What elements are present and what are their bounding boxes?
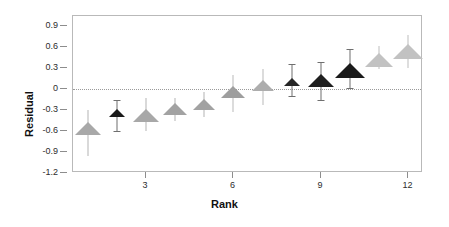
- x-tick-mark: [145, 172, 146, 178]
- data-point-marker: [221, 86, 245, 98]
- data-point-marker: [163, 103, 187, 115]
- data-point-marker: [308, 74, 334, 87]
- data-point-marker: [109, 109, 125, 117]
- y-tick-mark: [60, 151, 67, 152]
- x-tick-label: 12: [402, 180, 412, 190]
- y-tick-label: 0.6: [45, 41, 58, 51]
- error-bar-cap: [347, 49, 354, 50]
- y-tick-mark: [60, 130, 67, 131]
- x-tick-mark: [320, 172, 321, 178]
- error-bar-cap: [288, 64, 295, 65]
- plot-area: [72, 15, 422, 172]
- data-point-marker: [284, 78, 300, 86]
- y-tick-mark: [60, 88, 67, 89]
- x-tick-label: 3: [142, 180, 147, 190]
- error-bar-cap: [317, 100, 324, 101]
- data-point-marker: [75, 122, 101, 135]
- y-tick-label: -0.6: [42, 125, 58, 135]
- data-layer: [73, 16, 421, 171]
- x-tick-label: 9: [317, 180, 322, 190]
- error-bar-cap: [113, 131, 120, 132]
- x-tick-mark: [232, 172, 233, 178]
- y-tick-label: 0.9: [45, 20, 58, 30]
- data-point-marker: [193, 99, 215, 110]
- error-bar-cap: [113, 100, 120, 101]
- data-point-marker: [335, 63, 365, 78]
- y-tick-mark: [60, 25, 67, 26]
- x-tick-mark: [407, 172, 408, 178]
- x-tick-label: 6: [230, 180, 235, 190]
- x-axis: Rank 36912: [0, 172, 449, 227]
- y-tick-mark: [60, 109, 67, 110]
- error-bar-cap: [317, 62, 324, 63]
- error-bar-cap: [288, 96, 295, 97]
- data-point-marker: [393, 44, 423, 59]
- y-axis-title: Residual: [23, 91, 35, 137]
- y-tick-mark: [60, 67, 67, 68]
- y-tick-label: 0.3: [45, 62, 58, 72]
- y-tick-label: 0: [53, 83, 58, 93]
- zero-reference-line: [73, 89, 421, 90]
- data-point-marker: [365, 53, 393, 67]
- data-point-marker: [252, 80, 274, 91]
- data-point-marker: [133, 109, 159, 122]
- x-axis-title: Rank: [0, 198, 449, 210]
- residual-rank-chart: Residual 0.90.60.30-0.3-0.6-0.9-1.2 Rank…: [0, 0, 449, 227]
- y-tick-label: -0.3: [42, 104, 58, 114]
- y-tick-mark: [60, 46, 67, 47]
- y-tick-label: -0.9: [42, 146, 58, 156]
- error-bar-cap: [347, 88, 354, 89]
